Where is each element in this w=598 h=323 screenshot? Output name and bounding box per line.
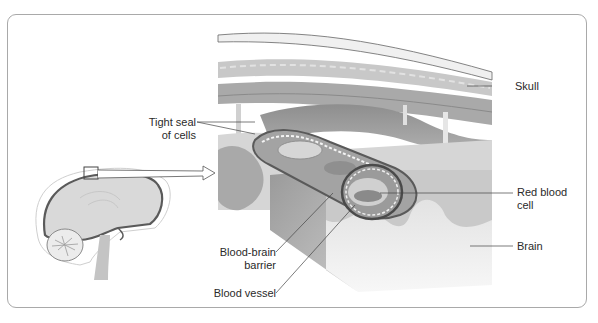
brain-sagittal-thumbnail [36,166,215,280]
label-skull: Skull [515,80,539,93]
label-red-blood-cell: Red blood cell [517,186,567,212]
label-brain: Brain [517,240,543,253]
label-blood-vessel: Blood vessel [200,287,276,300]
blood-brain-barrier-illustration [0,0,598,323]
label-tight-seal-of-cells: Tight seal of cells [148,116,196,142]
label-blood-brain-barrier: Blood-brain barrier [210,246,276,272]
